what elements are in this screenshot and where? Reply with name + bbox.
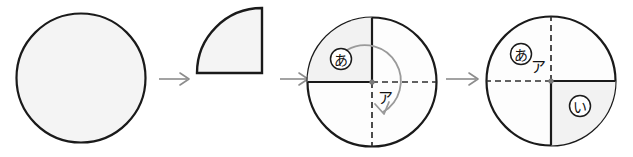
label-a-text: あ [334,52,348,68]
figure-step-3-rotation: あ ア [305,0,450,157]
label-a-text: あ [514,47,528,63]
diagram-canvas: あ ア あ ア [0,0,633,157]
circle-outline [17,14,146,143]
arrow-step3-to-step4 [440,0,488,157]
circle-quadrants-rotation-svg: あ ア [305,0,450,157]
figure-step-4-result: あ ア い [484,0,633,157]
right-arrow-icon [440,0,488,157]
quarter-circle-shape [197,8,262,73]
label-center-a-katakana: ア [531,58,546,76]
figure-step-1-full-circle [0,0,160,157]
label-center-a-katakana: ア [378,89,393,107]
quarter-circle-svg [190,0,280,157]
center-point-marker [369,79,374,84]
center-point-marker [548,78,553,83]
circle-quadrants-result-svg: あ ア い [484,0,633,157]
label-i-text: い [573,99,587,115]
figure-step-2-quarter-circle [190,0,280,157]
full-circle-svg [0,0,160,157]
